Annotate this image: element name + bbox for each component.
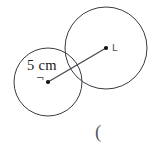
geometry-canvas	[0, 0, 163, 150]
small-circle-center-label: ¬	[36, 74, 44, 84]
large-circle-center-label: L	[112, 43, 117, 53]
small-circle-center-point	[46, 80, 50, 84]
bottom-parenthesis-mark: (	[95, 122, 101, 141]
geometry-figure: 5 cm ¬ L (	[0, 0, 163, 150]
large-circle-center-point	[104, 46, 108, 50]
length-label: 5 cm	[27, 58, 57, 73]
